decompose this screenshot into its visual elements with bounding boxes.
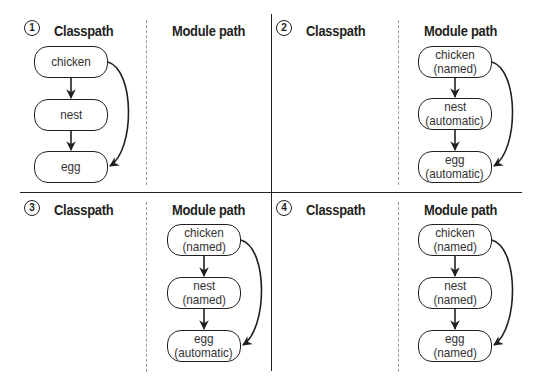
- panel-1-module-path-heading: Module path: [172, 22, 245, 39]
- panel-2-number-badge: 2: [276, 20, 292, 36]
- panel-4-node-chicken: chicken (named): [418, 224, 492, 256]
- node-name: chicken: [435, 226, 475, 240]
- node-name: chicken: [184, 226, 224, 240]
- panel-2-arrow-chicken-egg: [492, 62, 513, 166]
- panel-2-column-separator: [398, 20, 399, 185]
- node-name: egg: [445, 153, 465, 167]
- panel-1-classpath-heading: Classpath: [54, 22, 113, 39]
- panel-3-classpath-heading: Classpath: [54, 201, 113, 218]
- panel-4-node-egg: egg (named): [418, 330, 492, 362]
- panel-4-arrow-chicken-egg: [492, 240, 513, 345]
- panel-3-node-egg: egg (automatic): [167, 330, 241, 362]
- node-type: (named): [433, 293, 477, 307]
- panel-4-number-badge: 4: [276, 200, 292, 216]
- node-type: (named): [182, 240, 226, 254]
- node-type: (named): [433, 240, 477, 254]
- node-type: (automatic): [426, 167, 485, 181]
- panel-4-column-separator: [398, 202, 399, 372]
- panel-2-node-egg: egg (automatic): [418, 151, 492, 183]
- node-name: nest: [193, 279, 215, 293]
- panel-4-node-nest: nest (named): [418, 277, 492, 309]
- node-name: nest: [444, 279, 466, 293]
- node-name: egg: [445, 332, 465, 346]
- panel-3-module-path-heading: Module path: [172, 201, 245, 218]
- node-type: (named): [433, 62, 477, 76]
- panel-3-arrow-chicken-egg: [241, 240, 262, 345]
- panel-1-node-chicken: chicken: [34, 46, 108, 78]
- panel-1-node-nest: nest: [34, 99, 108, 131]
- node-name: chicken: [435, 48, 475, 62]
- panel-4-classpath-heading: Classpath: [306, 201, 365, 218]
- panel-3-node-chicken: chicken (named): [167, 224, 241, 256]
- panel-2-node-nest: nest (automatic): [418, 98, 492, 130]
- panel-3-node-nest: nest (named): [167, 277, 241, 309]
- panel-2-classpath-heading: Classpath: [306, 22, 365, 39]
- node-type: (named): [182, 293, 226, 307]
- node-name: nest: [444, 100, 466, 114]
- node-name: chicken: [51, 55, 91, 69]
- node-type: (named): [433, 346, 477, 360]
- panel-2-module-path-heading: Module path: [424, 22, 497, 39]
- node-name: nest: [60, 108, 82, 122]
- panel-2-node-chicken: chicken (named): [418, 46, 492, 78]
- node-type: (automatic): [426, 114, 485, 128]
- node-name: egg: [61, 160, 81, 174]
- node-name: egg: [194, 332, 214, 346]
- panel-3-number-badge: 3: [24, 200, 40, 216]
- vertical-divider: [271, 14, 272, 371]
- panel-1-number-badge: 1: [24, 20, 40, 36]
- module-diagram: 1 Classpath Module path chicken nest egg…: [0, 0, 540, 390]
- node-type: (automatic): [175, 346, 234, 360]
- panel-1-arrow-chicken-egg: [108, 62, 129, 166]
- panel-1-node-egg: egg: [34, 151, 108, 183]
- panel-3-column-separator: [146, 202, 147, 372]
- panel-4-module-path-heading: Module path: [424, 201, 497, 218]
- panel-1-column-separator: [146, 20, 147, 185]
